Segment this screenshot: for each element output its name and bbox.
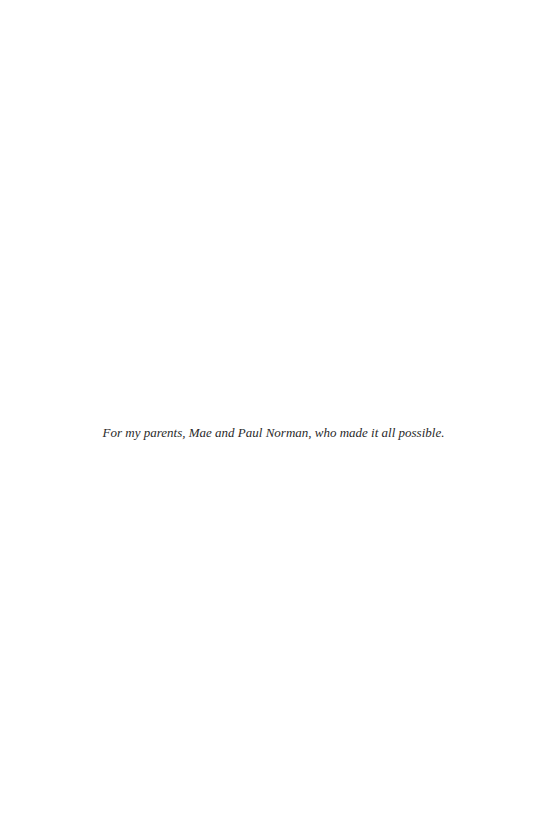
book-page: For my parents, Mae and Paul Norman, who… (0, 0, 547, 837)
dedication-text: For my parents, Mae and Paul Norman, who… (0, 424, 547, 442)
